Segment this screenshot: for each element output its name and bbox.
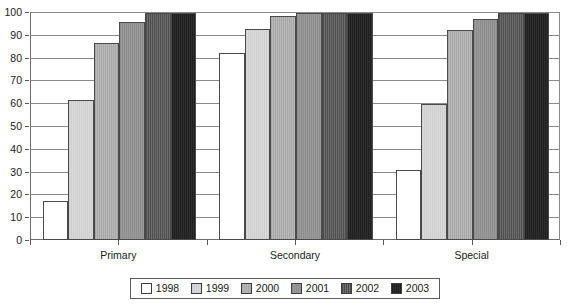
x-axis-boundary-tick xyxy=(383,240,384,245)
legend-item[interactable]: 2002 xyxy=(341,283,379,294)
bar xyxy=(524,13,550,240)
bars-layer xyxy=(31,13,559,240)
bar xyxy=(498,13,524,240)
x-axis-boundary-tick xyxy=(560,240,561,245)
y-axis-tick xyxy=(25,103,29,104)
y-axis-tick xyxy=(25,172,29,173)
bar xyxy=(145,13,171,240)
y-axis-tick-label: 90 xyxy=(10,30,22,40)
bar-chart: 0102030405060708090100 PrimarySecondaryS… xyxy=(0,0,567,307)
x-axis-tick xyxy=(295,240,296,245)
legend-item[interactable]: 1999 xyxy=(191,283,229,294)
y-axis-tick-label: 0 xyxy=(16,235,22,245)
legend-label: 1998 xyxy=(156,283,179,294)
x-axis-boundary-tick xyxy=(30,240,31,245)
legend-label: 2001 xyxy=(306,283,329,294)
legend-item[interactable]: 2001 xyxy=(291,283,329,294)
x-axis-tick xyxy=(118,240,119,245)
y-axis-tick xyxy=(25,240,29,241)
y-axis-tick xyxy=(25,12,29,13)
y-axis-tick xyxy=(25,35,29,36)
legend-label: 2002 xyxy=(356,283,379,294)
bar xyxy=(245,29,271,240)
legend-item[interactable]: 2003 xyxy=(391,283,429,294)
bar xyxy=(396,170,422,240)
legend-item[interactable]: 1998 xyxy=(141,283,179,294)
x-axis-boundary-tick xyxy=(207,240,208,245)
y-axis-tick-label: 10 xyxy=(10,212,22,222)
bar xyxy=(94,43,120,240)
bar xyxy=(68,100,94,240)
bar xyxy=(296,13,322,240)
legend-swatch-icon xyxy=(391,283,402,294)
bar xyxy=(473,19,499,240)
bar xyxy=(270,16,296,240)
y-axis-tick-label: 20 xyxy=(10,189,22,199)
y-axis: 0102030405060708090100 xyxy=(0,0,30,260)
bar xyxy=(219,53,245,240)
bar xyxy=(171,13,197,240)
bar xyxy=(119,22,145,240)
x-axis-category-label: Special xyxy=(383,249,560,261)
y-axis-tick xyxy=(25,80,29,81)
bar xyxy=(347,13,373,240)
y-axis-tick-label: 30 xyxy=(10,167,22,177)
y-axis-tick-label: 80 xyxy=(10,53,22,63)
legend-swatch-icon xyxy=(241,283,252,294)
x-axis-tick xyxy=(472,240,473,245)
x-axis-category-label: Primary xyxy=(30,249,207,261)
legend-swatch-icon xyxy=(191,283,202,294)
y-axis-tick-label: 70 xyxy=(10,75,22,85)
bar xyxy=(322,13,348,240)
y-axis-tick-label: 50 xyxy=(10,121,22,131)
legend-label: 2003 xyxy=(406,283,429,294)
bar xyxy=(43,201,69,240)
legend-swatch-icon xyxy=(291,283,302,294)
y-axis-tick-label: 60 xyxy=(10,98,22,108)
y-axis-tick-label: 40 xyxy=(10,144,22,154)
bar xyxy=(421,104,447,240)
x-axis-category-label: Secondary xyxy=(207,249,384,261)
legend-swatch-icon xyxy=(341,283,352,294)
y-axis-tick xyxy=(25,149,29,150)
legend: 199819992000200120022003 xyxy=(130,278,440,299)
legend-swatch-icon xyxy=(141,283,152,294)
legend-label: 1999 xyxy=(206,283,229,294)
y-axis-tick xyxy=(25,58,29,59)
y-axis-tick xyxy=(25,194,29,195)
legend-label: 2000 xyxy=(256,283,279,294)
y-axis-tick-label: 100 xyxy=(4,7,22,17)
bar xyxy=(447,30,473,240)
legend-item[interactable]: 2000 xyxy=(241,283,279,294)
y-axis-tick xyxy=(25,126,29,127)
y-axis-tick xyxy=(25,217,29,218)
